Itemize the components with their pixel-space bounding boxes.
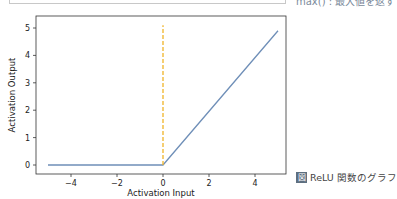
svg-text:3: 3 — [25, 79, 30, 88]
figure-icon: 図 — [296, 172, 307, 183]
svg-text:5: 5 — [25, 24, 30, 33]
svg-text:2: 2 — [25, 106, 30, 115]
svg-text:−4: −4 — [65, 179, 77, 188]
x-axis-label: Activation Input — [127, 188, 195, 198]
plot-frame — [36, 16, 286, 174]
svg-text:0: 0 — [160, 179, 165, 188]
svg-text:1: 1 — [25, 134, 30, 143]
x-axis-ticks: −4−2024 — [65, 174, 257, 188]
figure-caption: 図 ReLU 関数のグラフ — [296, 170, 397, 184]
y-axis-ticks: 012345 — [25, 24, 36, 170]
caption-text: ReLU 関数のグラフ — [310, 170, 397, 184]
svg-text:2: 2 — [206, 179, 211, 188]
svg-text:4: 4 — [252, 179, 257, 188]
y-axis-label: Activation Output — [7, 57, 17, 132]
svg-text:−2: −2 — [111, 179, 123, 188]
svg-text:4: 4 — [25, 51, 30, 60]
svg-text:0: 0 — [25, 161, 30, 170]
